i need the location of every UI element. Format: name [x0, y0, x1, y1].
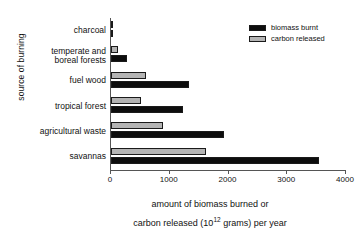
category-label: agricultural waste	[10, 127, 106, 137]
bar-biomass-burnt	[111, 157, 319, 164]
x-tick-label: 1000	[160, 175, 178, 184]
bar-row: agricultural waste	[110, 119, 345, 144]
bar-carbon-released	[111, 97, 141, 104]
bar-carbon-released	[111, 72, 146, 79]
bar-biomass-burnt	[111, 30, 113, 37]
bar-chart: source of burning 01000200030004000 char…	[0, 0, 363, 238]
x-tick	[345, 170, 346, 174]
bar-carbon-released	[111, 46, 118, 53]
category-label-line: fuel wood	[10, 77, 106, 87]
y-axis-title: source of burning	[16, 2, 26, 132]
category-label: charcoal	[10, 26, 106, 36]
legend-item-biomass-burnt: biomass burnt	[249, 22, 325, 33]
x-tick	[286, 170, 287, 174]
x-axis-title-line2: carbon released (1012 grams) per year	[60, 212, 360, 231]
legend-swatch-icon-biomass-burnt	[249, 25, 266, 31]
x-tick-label: 2000	[219, 175, 237, 184]
bar-carbon-released	[111, 21, 113, 28]
legend-item-carbon-released: carbon released	[249, 33, 325, 44]
bar-carbon-released	[111, 148, 206, 155]
x-tick	[228, 170, 229, 174]
category-label: temperate andboreal forests	[10, 46, 106, 65]
x-tick-label: 4000	[336, 175, 354, 184]
bar-carbon-released	[111, 122, 163, 129]
bar-biomass-burnt	[111, 81, 189, 88]
x-axis-title-exponent: 12	[213, 216, 220, 223]
legend-swatch-icon-carbon-released	[249, 36, 266, 42]
legend-label-carbon-released: carbon released	[271, 34, 325, 43]
bar-row: temperate andboreal forests	[110, 43, 345, 68]
category-label-line: agricultural waste	[10, 127, 106, 137]
legend: biomass burnt carbon released	[249, 22, 325, 44]
x-axis-title-line2-pre: carbon released (10	[133, 218, 213, 228]
category-label-line: charcoal	[10, 26, 106, 36]
bar-row: tropical forest	[110, 94, 345, 119]
bar-row: fuel wood	[110, 69, 345, 94]
bar-row: savannas	[110, 145, 345, 170]
bar-biomass-burnt	[111, 106, 183, 113]
category-label: tropical forest	[10, 102, 106, 112]
x-axis-title: amount of biomass burned or carbon relea…	[60, 196, 360, 231]
x-tick-label: 0	[108, 175, 112, 184]
bar-biomass-burnt	[111, 55, 127, 62]
legend-label-biomass-burnt: biomass burnt	[271, 23, 318, 32]
x-axis-title-line1: amount of biomass burned or	[60, 196, 360, 212]
x-tick	[169, 170, 170, 174]
bar-biomass-burnt	[111, 131, 224, 138]
category-label-line: savannas	[10, 153, 106, 163]
category-label: savannas	[10, 153, 106, 163]
x-tick-label: 3000	[277, 175, 295, 184]
category-label: fuel wood	[10, 77, 106, 87]
category-label-line: tropical forest	[10, 102, 106, 112]
x-tick	[110, 170, 111, 174]
x-axis-title-line2-post: grams) per year	[221, 218, 287, 228]
category-label-line: boreal forests	[10, 56, 106, 66]
